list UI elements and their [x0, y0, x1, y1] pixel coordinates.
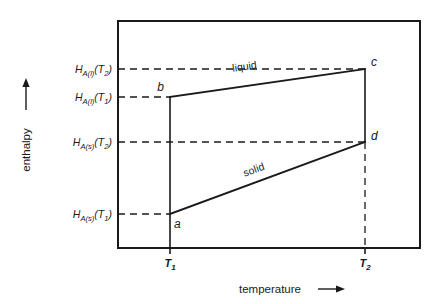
- ytick-ha-l-t2-sub1: A(l): [82, 69, 95, 78]
- curve-label-solid: solid: [241, 160, 266, 179]
- enthalpy-temperature-diagram: a b c d liquid solid HA(l)(T2) HA(l)(T1)…: [0, 0, 436, 304]
- xtick-label-t2: T2: [359, 257, 371, 272]
- xtick-t1-sub: 1: [171, 263, 176, 272]
- figure-page: a b c d liquid solid HA(l)(T2) HA(l)(T1)…: [0, 0, 436, 304]
- y-axis-title: enthalpy: [20, 128, 32, 172]
- ytick-ha-s-t1-sub1: A(s): [79, 214, 94, 223]
- ytick-label-ha-s-t1: HA(s)(T1): [73, 208, 112, 223]
- ytick-ha-l-t1-sub1: A(l): [82, 97, 95, 106]
- ytick-ha-s-t2-sub1: A(s): [79, 142, 94, 151]
- ytick-label-ha-s-t2: HA(s)(T2): [73, 136, 112, 151]
- point-label-b: b: [157, 80, 164, 94]
- ytick-label-ha-l-t1: HA(l)(T1): [75, 91, 112, 106]
- point-label-d: d: [371, 129, 378, 143]
- xtick-label-t1: T1: [164, 257, 176, 272]
- curve-liquid: [170, 69, 365, 97]
- point-label-a: a: [174, 217, 181, 231]
- y-axis-arrow-icon: [22, 78, 29, 87]
- xtick-t2-sub: 2: [365, 263, 371, 272]
- curve-solid: [170, 142, 365, 214]
- ytick-label-ha-l-t2: HA(l)(T2): [75, 63, 112, 78]
- curve-label-liquid: liquid: [231, 58, 257, 73]
- x-axis-arrow-icon: [336, 285, 345, 292]
- x-axis-title: temperature: [239, 283, 301, 295]
- point-label-c: c: [371, 55, 377, 69]
